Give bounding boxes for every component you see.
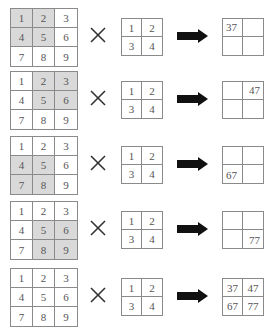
result-matrix: 77 [222, 211, 264, 249]
input-cell: 4 [11, 91, 33, 110]
input-cell: 7 [11, 175, 33, 194]
result-matrix: 37 47 67 77 [222, 278, 264, 316]
input-cell: 7 [11, 240, 33, 259]
input-cell: 3 [55, 72, 77, 91]
arrow-right-icon [177, 222, 209, 236]
input-cell: 6 [55, 156, 77, 175]
input-cell: 9 [55, 307, 77, 326]
input-cell: 8 [33, 240, 55, 259]
kernel-matrix: 1 2 3 4 [121, 18, 163, 56]
arrow-right-icon [177, 92, 209, 106]
convolution-step-3: 1 2 3 4 5 6 7 8 9 1 2 3 4 67 [0, 136, 274, 201]
kernel-cell: 3 [122, 100, 142, 118]
kernel-cell: 3 [122, 165, 142, 183]
input-cell: 8 [33, 47, 55, 66]
kernel-cell: 4 [142, 230, 162, 248]
result-cell [223, 37, 243, 55]
multiply-icon [88, 88, 108, 108]
result-cell: 37 [223, 279, 243, 297]
result-cell [223, 212, 243, 230]
result-cell [243, 37, 263, 55]
input-cell: 4 [11, 288, 33, 307]
kernel-cell: 2 [142, 147, 162, 165]
result-cell: 47 [243, 279, 263, 297]
input-cell: 3 [55, 9, 77, 28]
kernel-cell: 2 [142, 82, 162, 100]
kernel-cell: 4 [142, 165, 162, 183]
result-cell [243, 165, 263, 183]
input-cell: 7 [11, 307, 33, 326]
result-cell [243, 147, 263, 165]
kernel-cell: 1 [122, 82, 142, 100]
input-cell: 2 [33, 9, 55, 28]
input-cell: 5 [33, 28, 55, 47]
input-cell: 4 [11, 28, 33, 47]
input-cell: 8 [33, 175, 55, 194]
result-cell: 37 [223, 19, 243, 37]
input-cell: 8 [33, 307, 55, 326]
convolution-step-4: 1 2 3 4 5 6 7 8 9 1 2 3 4 77 [0, 201, 274, 266]
result-cell: 47 [243, 82, 263, 100]
input-cell: 8 [33, 110, 55, 129]
result-cell [223, 147, 243, 165]
kernel-cell: 1 [122, 279, 142, 297]
kernel-cell: 2 [142, 279, 162, 297]
multiply-icon [88, 153, 108, 173]
input-cell: 1 [11, 72, 33, 91]
kernel-matrix: 1 2 3 4 [121, 278, 163, 316]
kernel-matrix: 1 2 3 4 [121, 211, 163, 249]
input-cell: 7 [11, 47, 33, 66]
result-matrix: 67 [222, 146, 264, 184]
input-cell: 5 [33, 288, 55, 307]
kernel-cell: 4 [142, 100, 162, 118]
input-cell: 5 [33, 156, 55, 175]
result-cell: 67 [223, 165, 243, 183]
arrow-right-icon [177, 157, 209, 171]
kernel-cell: 3 [122, 37, 142, 55]
input-cell: 1 [11, 202, 33, 221]
input-matrix: 1 2 3 4 5 6 7 8 9 [10, 201, 78, 260]
kernel-cell: 1 [122, 212, 142, 230]
input-cell: 4 [11, 221, 33, 240]
result-cell [243, 212, 263, 230]
kernel-cell: 3 [122, 297, 142, 315]
kernel-cell: 4 [142, 37, 162, 55]
result-cell: 77 [243, 230, 263, 248]
kernel-cell: 4 [142, 297, 162, 315]
convolution-result: 1 2 3 4 5 6 7 8 9 1 2 3 4 37 47 67 77 [0, 268, 274, 331]
input-cell: 2 [33, 269, 55, 288]
input-cell: 3 [55, 202, 77, 221]
input-cell: 6 [55, 91, 77, 110]
result-cell [223, 82, 243, 100]
convolution-step-1: 1 2 3 4 5 6 7 8 9 1 2 3 4 37 [0, 8, 274, 73]
kernel-cell: 1 [122, 19, 142, 37]
input-cell: 1 [11, 137, 33, 156]
input-cell: 3 [55, 269, 77, 288]
multiply-icon [88, 218, 108, 238]
result-cell: 67 [223, 297, 243, 315]
input-cell: 5 [33, 221, 55, 240]
arrow-right-icon [177, 289, 209, 303]
input-cell: 9 [55, 175, 77, 194]
input-matrix: 1 2 3 4 5 6 7 8 9 [10, 268, 78, 327]
convolution-step-2: 1 2 3 4 5 6 7 8 9 1 2 3 4 47 [0, 71, 274, 136]
kernel-matrix: 1 2 3 4 [121, 81, 163, 119]
input-matrix: 1 2 3 4 5 6 7 8 9 [10, 71, 78, 130]
kernel-matrix: 1 2 3 4 [121, 146, 163, 184]
input-cell: 1 [11, 269, 33, 288]
result-cell [223, 230, 243, 248]
input-cell: 2 [33, 137, 55, 156]
kernel-cell: 2 [142, 19, 162, 37]
result-matrix: 37 [222, 18, 264, 56]
result-cell [243, 100, 263, 118]
input-cell: 6 [55, 28, 77, 47]
kernel-cell: 1 [122, 147, 142, 165]
kernel-cell: 2 [142, 212, 162, 230]
input-cell: 1 [11, 9, 33, 28]
multiply-icon [88, 25, 108, 45]
input-cell: 9 [55, 240, 77, 259]
input-cell: 4 [11, 156, 33, 175]
input-cell: 2 [33, 202, 55, 221]
input-matrix: 1 2 3 4 5 6 7 8 9 [10, 136, 78, 195]
input-cell: 3 [55, 137, 77, 156]
